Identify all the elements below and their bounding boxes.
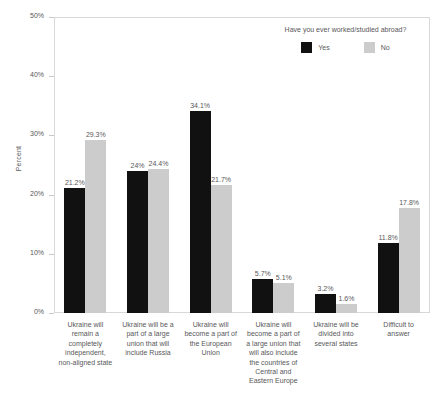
legend-item-yes[interactable]: Yes xyxy=(301,42,329,53)
bar-value-label: 34.1% xyxy=(185,102,215,109)
y-axis-tick-label: 0% xyxy=(34,308,44,315)
bar-group: 3.2%1.6% xyxy=(315,17,357,313)
bar-group: 5.7%5.1% xyxy=(252,17,294,313)
bar-yes[interactable] xyxy=(252,279,273,313)
bar-value-label: 5.1% xyxy=(269,274,299,281)
legend-swatch-yes xyxy=(301,42,312,53)
y-axis-tick-mark xyxy=(49,313,54,314)
bar-no[interactable] xyxy=(211,185,232,313)
y-axis-tick-label: 50% xyxy=(30,12,44,19)
y-axis-tick-label: 20% xyxy=(30,190,44,197)
legend-title: Have you ever worked/studied abroad? xyxy=(258,26,433,33)
bar-no[interactable] xyxy=(399,208,420,313)
bar-no[interactable] xyxy=(273,283,294,313)
bar-chart: Percent 0%10%20%30%40%50% 21.2%29.3%24%2… xyxy=(0,0,445,402)
bar-no[interactable] xyxy=(148,169,169,313)
bar-no[interactable] xyxy=(336,304,357,313)
bar-group: 34.1%21.7% xyxy=(190,17,232,313)
x-axis-category-label: Ukraine willremain acompletelyindependen… xyxy=(52,320,119,367)
bar-value-label: 29.3% xyxy=(81,131,111,138)
x-axis-category-label: Ukraine will bedivided intoseveral state… xyxy=(303,320,370,348)
y-axis-tick-label: 40% xyxy=(30,71,44,78)
legend-items: YesNo xyxy=(258,42,433,53)
bar-yes[interactable] xyxy=(127,171,148,313)
bar-value-label: 24.4% xyxy=(144,160,174,167)
x-axis-category-label: Ukraine willbecome a part ofa large unio… xyxy=(240,320,307,386)
x-axis-category-label: Ukraine will be apart of a largeunion th… xyxy=(115,320,182,358)
legend-label: No xyxy=(381,44,390,51)
bar-yes[interactable] xyxy=(378,243,399,313)
bar-value-label: 3.2% xyxy=(311,285,341,292)
y-axis-tick-label: 30% xyxy=(30,130,44,137)
y-axis-tick-label: 10% xyxy=(30,249,44,256)
bar-group: 24%24.4% xyxy=(127,17,169,313)
x-axis-category-label: Ukraine willbecome a part ofthe European… xyxy=(177,320,244,358)
bar-yes[interactable] xyxy=(190,111,211,313)
bar-yes[interactable] xyxy=(64,188,85,314)
bar-value-label: 17.8% xyxy=(394,199,424,206)
legend-label: Yes xyxy=(318,44,329,51)
bar-group: 21.2%29.3% xyxy=(64,17,106,313)
legend-swatch-no xyxy=(364,42,375,53)
caption-sliver xyxy=(8,396,438,402)
bar-value-label: 21.7% xyxy=(206,176,236,183)
plot-area: 21.2%29.3%24%24.4%34.1%21.7%5.7%5.1%3.2%… xyxy=(54,17,430,313)
bar-value-label: 1.6% xyxy=(332,295,362,302)
bar-group: 11.8%17.8% xyxy=(378,17,420,313)
y-axis-title: Percent xyxy=(15,129,22,189)
legend: Have you ever worked/studied abroad? Yes… xyxy=(258,26,433,53)
bar-no[interactable] xyxy=(85,140,106,313)
x-axis-category-label: Difficult toanswer xyxy=(365,320,432,339)
legend-item-no[interactable]: No xyxy=(364,42,390,53)
x-axis-labels: Ukraine willremain acompletelyindependen… xyxy=(54,320,430,400)
